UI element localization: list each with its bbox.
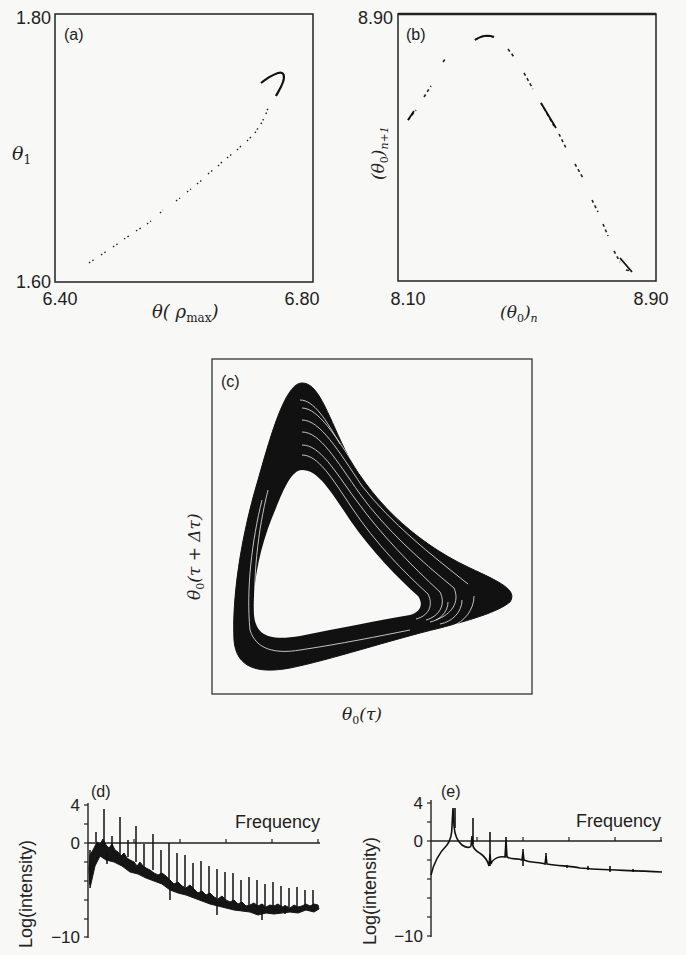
- panel-d: (d) 4 0 −10 Frequency Log(intensity): [16, 783, 320, 948]
- panel-b: (b) 8.90 8.10 8.90 (θ0)n+1 (θ0)n: [358, 8, 669, 325]
- panel-c-attractor: [234, 383, 512, 670]
- figure: (a) 1.80 1.60 6.40 6.80 θ1 θ( ρmax) (b) …: [0, 0, 686, 955]
- panel-d-label: (d): [91, 783, 111, 800]
- panel-d-y-tick-4: 4: [71, 796, 80, 815]
- panel-b-points: [408, 36, 632, 272]
- panel-e-y-tick-0: 0: [414, 832, 423, 851]
- panel-a-y-max: 1.80: [16, 8, 51, 28]
- panel-a-x-label: θ( ρmax): [152, 301, 219, 325]
- panel-a-x-min: 6.40: [42, 289, 77, 309]
- panel-a: (a) 1.80 1.60 6.40 6.80 θ1 θ( ρmax): [12, 8, 320, 325]
- panel-b-x-min: 8.10: [390, 289, 425, 309]
- panel-d-x-label: Frequency: [235, 812, 320, 832]
- panel-b-label: (b): [406, 26, 426, 43]
- panel-b-frame: [398, 14, 656, 281]
- panel-b-x-label: (θ0)n: [500, 302, 538, 325]
- panel-a-y-label: θ1: [12, 142, 31, 167]
- panel-e-label: (e): [441, 783, 461, 800]
- panel-e-y-tick-minus10: −10: [394, 927, 423, 946]
- panel-d-y-tick-0: 0: [71, 834, 80, 853]
- panel-c-y-label: θ0(τ + Δτ): [184, 513, 207, 600]
- panel-d-y-label: Log(intensity): [16, 840, 36, 948]
- panel-c-label: (c): [221, 373, 240, 390]
- panel-e: (e) 4 0 −10 Frequency Log(intensity): [360, 783, 662, 946]
- panel-e-y-tick-4: 4: [414, 794, 423, 813]
- panel-a-frame: [55, 14, 313, 282]
- panel-a-x-max: 6.80: [284, 289, 319, 309]
- panel-d-y-tick-minus10: −10: [51, 928, 80, 947]
- panel-a-label: (a): [64, 26, 84, 43]
- panel-b-y-label: (θ0)n+1: [368, 126, 391, 180]
- panel-b-y-max: 8.90: [358, 8, 393, 28]
- panel-c: (c) θ0(τ + Δτ) θ0(τ): [184, 359, 532, 727]
- panel-b-x-max: 8.90: [633, 289, 668, 309]
- panel-c-x-label: θ0(τ): [342, 704, 382, 727]
- panel-e-x-label: Frequency: [576, 811, 661, 831]
- panel-e-y-label: Log(intensity): [360, 837, 380, 945]
- panel-a-points: [89, 73, 284, 263]
